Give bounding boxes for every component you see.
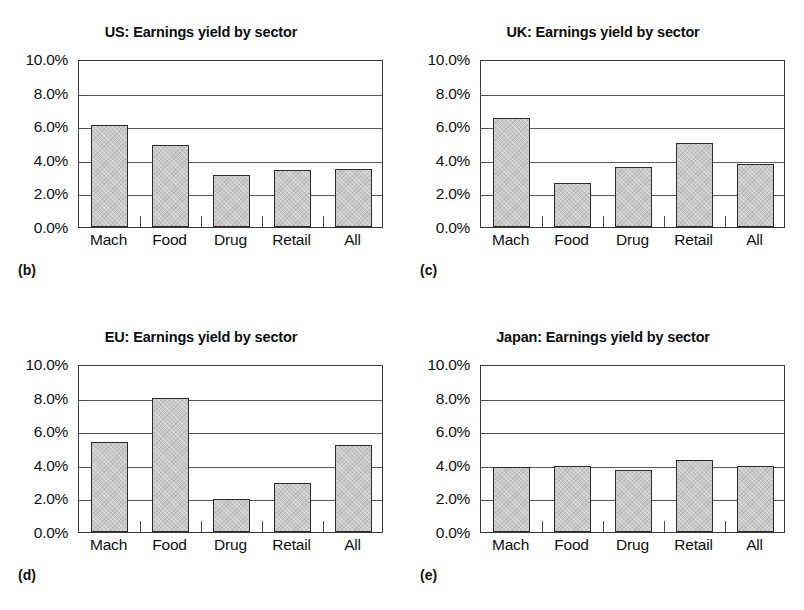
y-axis-tick-label: 0.0% [34,219,68,237]
y-axis-tick-label: 4.0% [436,457,470,475]
chart-title: Japan: Earnings yield by sector [402,329,804,345]
bar-retail [676,143,714,227]
y-axis-tick-label: 10.0% [428,356,470,374]
y-axis-tick-label: 10.0% [26,356,68,374]
y-axis-labels: 10.0%8.0%6.0%4.0%2.0%0.0% [402,60,474,228]
x-axis-tick-label: Drug [616,536,649,554]
x-axis-tick-label: Retail [674,536,712,554]
bar-food [554,183,592,227]
bar-retail [274,170,312,227]
x-axis-tick-mark [542,216,543,227]
y-axis-tick-label: 4.0% [436,152,470,170]
x-axis-tick-mark [542,521,543,532]
x-axis-tick-label: All [746,231,763,249]
y-axis-tick-label: 2.0% [436,490,470,508]
y-axis-tick-label: 0.0% [436,524,470,542]
x-axis-tick-mark [201,521,202,532]
x-axis-tick-label: Drug [214,536,247,554]
y-axis-tick-mark [78,500,86,501]
x-axis-tick-label: Food [152,231,187,249]
gridline [79,400,382,401]
x-axis-tick-label: Mach [492,536,529,554]
x-axis-tick-mark [323,216,324,227]
chart-panel-uk: UK: Earnings yield by sector10.0%8.0%6.0… [402,0,804,305]
x-axis-labels: MachFoodDrugRetailAll [78,536,383,562]
bar-food [554,466,592,532]
x-axis-labels: MachFoodDrugRetailAll [480,536,785,562]
x-axis-tick-mark [725,216,726,227]
gridline [79,433,382,434]
x-axis-tick-label: All [344,231,361,249]
plot-area [78,60,383,228]
bar-drug [615,470,653,532]
x-axis-tick-label: All [746,536,763,554]
chart-title: US: Earnings yield by sector [0,24,402,40]
x-axis-tick-label: Retail [674,231,712,249]
x-axis-tick-label: Food [554,536,589,554]
x-axis-tick-mark [603,216,604,227]
x-axis-tick-label: Retail [272,536,310,554]
plot-area [480,365,785,533]
gridline [481,400,784,401]
panel-caption: (e) [420,567,437,583]
y-axis-tick-label: 2.0% [34,490,68,508]
y-axis-tick-label: 10.0% [26,51,68,69]
gridline [481,95,784,96]
y-axis-tick-mark [78,433,86,434]
bar-all [335,169,373,227]
x-axis-tick-mark [140,521,141,532]
bar-mach [91,442,129,532]
y-axis-tick-label: 2.0% [436,185,470,203]
bar-retail [274,483,312,532]
chart-panel-japan: Japan: Earnings yield by sector10.0%8.0%… [402,305,804,610]
y-axis-tick-label: 8.0% [436,85,470,103]
y-axis-tick-label: 2.0% [34,185,68,203]
x-axis-tick-label: Drug [214,231,247,249]
x-axis-tick-mark [262,216,263,227]
bar-food [152,145,190,227]
y-axis-tick-mark [480,433,488,434]
y-axis-tick-label: 8.0% [34,390,68,408]
chart-panel-eu: EU: Earnings yield by sector10.0%8.0%6.0… [0,305,402,610]
y-axis-labels: 10.0%8.0%6.0%4.0%2.0%0.0% [0,60,72,228]
x-axis-tick-label: Food [554,231,589,249]
y-axis-tick-label: 8.0% [436,390,470,408]
x-axis-tick-mark [323,521,324,532]
y-axis-tick-label: 4.0% [34,152,68,170]
y-axis-tick-mark [480,400,488,401]
x-axis-tick-mark [664,216,665,227]
x-axis-tick-mark [140,216,141,227]
y-axis-tick-mark [480,500,488,501]
gridline [481,433,784,434]
bar-drug [213,175,251,227]
chart-panel-us: US: Earnings yield by sector10.0%8.0%6.0… [0,0,402,305]
y-axis-tick-mark [78,128,86,129]
panel-caption: (d) [18,567,36,583]
y-axis-tick-mark [78,195,86,196]
y-axis-tick-label: 6.0% [34,118,68,136]
chart-title: UK: Earnings yield by sector [402,24,804,40]
bar-drug [615,167,653,227]
y-axis-tick-mark [78,162,86,163]
y-axis-labels: 10.0%8.0%6.0%4.0%2.0%0.0% [402,365,474,533]
x-axis-tick-label: Mach [492,231,529,249]
x-axis-tick-mark [201,216,202,227]
bar-all [335,445,373,532]
y-axis-tick-mark [78,95,86,96]
bar-mach [91,125,129,227]
y-axis-tick-mark [480,128,488,129]
y-axis-tick-mark [78,400,86,401]
bar-mach [493,467,531,532]
y-axis-tick-mark [78,467,86,468]
chart-title: EU: Earnings yield by sector [0,329,402,345]
y-axis-tick-mark [480,162,488,163]
x-axis-labels: MachFoodDrugRetailAll [78,231,383,257]
plot-area [78,365,383,533]
y-axis-labels: 10.0%8.0%6.0%4.0%2.0%0.0% [0,365,72,533]
y-axis-tick-label: 6.0% [34,423,68,441]
bar-retail [676,460,714,532]
y-axis-tick-mark [480,195,488,196]
panel-caption: (c) [420,262,437,278]
y-axis-tick-label: 0.0% [34,524,68,542]
x-axis-labels: MachFoodDrugRetailAll [480,231,785,257]
